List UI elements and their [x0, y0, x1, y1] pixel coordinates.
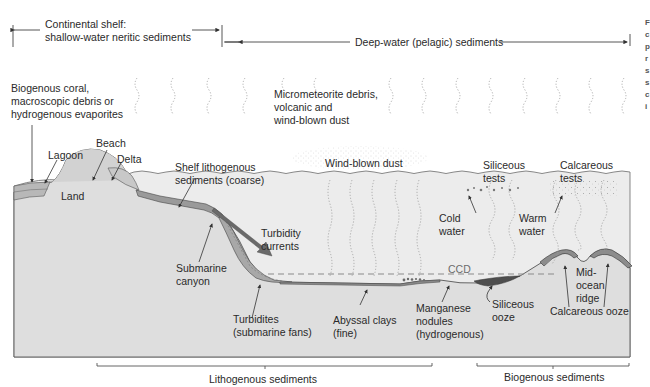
cropped-caption-char-7: i — [645, 101, 647, 112]
abyssal-clays-label-1: Abyssal clays — [333, 314, 397, 327]
lithogenous-sediments-label: Lithogenous sediments — [209, 373, 317, 386]
land-label: Land — [61, 190, 84, 203]
manganese-nodules-label-2: nodules — [416, 315, 453, 328]
beach-label: Beach — [96, 137, 126, 150]
cold-water-label-2: water — [439, 225, 465, 238]
mid-ocean-ridge-label-2: ocean — [576, 279, 605, 292]
biogenous-sediments-label: Biogenous sediments — [504, 371, 604, 384]
siliceous-tests-label-2: tests — [483, 172, 505, 185]
calcareous-tests-label-1: Calcareous — [560, 159, 613, 172]
biogenous-coral-label-2: macroscopic debris or — [11, 95, 114, 108]
bottom-brackets — [97, 363, 629, 369]
cropped-caption-char-1: c — [645, 29, 649, 40]
cropped-caption-char-2: p — [645, 41, 650, 52]
warm-water-label-1: Warm — [519, 212, 547, 225]
siliceous-tests-label-1: Siliceous — [483, 159, 525, 172]
siliceous-ooze-label-1: Siliceous — [492, 298, 534, 311]
wind-blown-dust-label: Wind-blown dust — [325, 157, 403, 170]
cold-water-label-1: Cold — [439, 212, 461, 225]
turbidity-currents-label-1: Turbidity — [261, 227, 301, 240]
turbidites-label-2: (submarine fans) — [233, 326, 312, 339]
ccd-label: CCD — [448, 263, 471, 276]
continental-shelf-label-line2: shallow-water neritic sediments — [45, 31, 191, 44]
cropped-caption-char-4: s — [645, 65, 649, 76]
siliceous-ooze-label-2: ooze — [492, 311, 515, 324]
calcareous-test-particles — [548, 180, 618, 196]
settling-particle-lines-sky — [135, 78, 626, 114]
continental-shelf-label-line1: Continental shelf: — [45, 18, 126, 31]
cropped-caption-char-5: s — [645, 77, 649, 88]
biogenous-coral-label-3: hydrogenous evaporites — [11, 108, 123, 121]
manganese-nodules-label-3: (hydrogenous) — [416, 328, 484, 341]
deep-water-label: Deep-water (pelagic) sediments — [355, 36, 503, 49]
abyssal-clays-label-2: (fine) — [333, 327, 357, 340]
micrometeorite-label-3: wind-blown dust — [274, 114, 349, 127]
calcareous-tests-label-2: tests — [560, 172, 582, 185]
submarine-canyon-label-2: canyon — [176, 275, 210, 288]
warm-water-label-2: water — [519, 225, 545, 238]
submarine-canyon-label-1: Submarine — [176, 262, 227, 275]
ocean-cross-section — [14, 149, 632, 357]
lagoon-label: Lagoon — [48, 149, 83, 162]
cropped-caption-char-6: c — [645, 89, 649, 100]
turbidity-currents-label-2: currents — [261, 240, 299, 253]
mid-ocean-ridge-label-3: ridge — [576, 292, 599, 305]
turbidites-label-1: Turbidites — [233, 313, 279, 326]
cropped-caption-char-0: F — [645, 17, 650, 28]
mid-ocean-ridge-label-1: Mid- — [576, 266, 596, 279]
manganese-nodules-label-1: Manganese — [416, 302, 471, 315]
micrometeorite-label-1: Micrometeorite debris, — [274, 88, 378, 101]
sediment-diagram — [0, 0, 650, 387]
shelf-lithogenous-label-2: sediments (coarse) — [175, 174, 264, 187]
shelf-lithogenous-label-1: Shelf lithogenous — [175, 161, 256, 174]
delta-label: Delta — [117, 153, 142, 166]
micrometeorite-label-2: volcanic and — [274, 101, 332, 114]
calcareous-ooze-label: Calcareous ooze — [550, 305, 629, 318]
cropped-caption-char-3: r — [645, 53, 648, 64]
biogenous-coral-label-1: Biogenous coral, — [11, 82, 89, 95]
